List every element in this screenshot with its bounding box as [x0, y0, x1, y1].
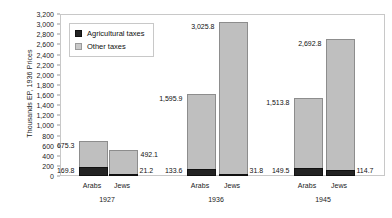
bar-segment-agricultural — [109, 174, 138, 176]
bar-segment-agricultural — [326, 170, 355, 176]
legend-item-agricultural-taxes: Agricultural taxes — [75, 28, 145, 39]
y-tick-label: 600 — [42, 142, 54, 149]
y-tick-label: 2,800 — [36, 31, 54, 38]
bar-agricultural-label: 133.6 — [165, 167, 183, 174]
legend-swatch-agricultural-icon — [75, 30, 82, 37]
y-tick-label: 1,600 — [36, 92, 54, 99]
chart-container: Thousands EP, 1936 Prices 3,2003,0002,80… — [0, 0, 392, 218]
category-label-jews: Jews — [114, 182, 130, 189]
category-label-jews: Jews — [224, 182, 240, 189]
bar-total-label: 675.3 — [57, 142, 75, 149]
legend-item-other-taxes: Other taxes — [75, 41, 145, 52]
bar-total-label: 3,025.8 — [191, 23, 214, 30]
chart-legend: Agricultural taxes Other taxes — [69, 23, 154, 57]
bar-agricultural-label: 149.5 — [272, 167, 290, 174]
bar-segment-agricultural — [187, 169, 216, 176]
legend-swatch-other-icon — [75, 43, 82, 50]
category-label-jews: Jews — [331, 182, 347, 189]
bar-total-label: 1,513.8 — [266, 99, 289, 106]
legend-label-other-taxes: Other taxes — [87, 42, 126, 51]
bar-1936-jews — [219, 22, 248, 175]
bar-agricultural-label: 114.7 — [357, 167, 374, 174]
bar-segment-agricultural — [79, 167, 108, 176]
y-tick-label: 400 — [42, 152, 54, 159]
bar-1945-jews — [326, 39, 355, 175]
y-tick-label: 200 — [42, 162, 54, 169]
bar-1927-arabs — [79, 141, 108, 175]
bar-agricultural-label: 31.8 — [250, 167, 264, 174]
y-tick-label: 2,000 — [36, 71, 54, 78]
category-label-arabs: Arabs — [191, 182, 209, 189]
group-label-1927: 1927 — [99, 196, 115, 203]
y-tick-label: 2,200 — [36, 61, 54, 68]
y-tick-label: 1,400 — [36, 102, 54, 109]
bar-total-label: 492.1 — [141, 151, 159, 158]
y-tick-label: 3,200 — [36, 11, 54, 18]
y-tick-label: 1,200 — [36, 112, 54, 119]
bar-agricultural-label: 21.2 — [140, 167, 154, 174]
y-tick-label: 800 — [42, 132, 54, 139]
group-label-1936: 1936 — [208, 196, 224, 203]
bar-1927-jews — [109, 150, 138, 175]
category-label-arabs: Arabs — [298, 182, 316, 189]
y-tick-label: 2,400 — [36, 51, 54, 58]
group-label-1945: 1945 — [315, 196, 331, 203]
bar-1936-arabs — [187, 94, 216, 175]
legend-label-agricultural-taxes: Agricultural taxes — [87, 29, 145, 38]
bar-total-label: 2,692.8 — [298, 40, 321, 47]
bar-segment-agricultural — [294, 168, 323, 176]
y-tick-label: 0 — [50, 173, 54, 180]
bar-agricultural-label: 169.8 — [57, 167, 75, 174]
y-tick-label: 1,000 — [36, 122, 54, 129]
y-tick-label: 3,000 — [36, 21, 54, 28]
y-axis-tick-labels: 3,2003,0002,8002,6002,4002,2002,0001,800… — [0, 0, 58, 218]
y-tick-label: 1,800 — [36, 81, 54, 88]
category-label-arabs: Arabs — [83, 182, 101, 189]
bar-segment-agricultural — [219, 174, 248, 176]
plot-area: Agricultural taxes Other taxes 675.3169.… — [60, 14, 385, 176]
y-tick-label: 2,600 — [36, 41, 54, 48]
bar-1945-arabs — [294, 98, 323, 175]
bar-total-label: 1,595.9 — [159, 95, 182, 102]
